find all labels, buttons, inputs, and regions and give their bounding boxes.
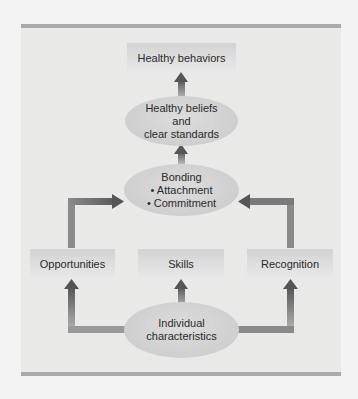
node-label: Healthy beliefs [145,102,217,115]
node-individual-characteristics: Individual characteristics [124,302,239,358]
arrow-recognition-to-bonding-icon [238,194,294,248]
node-label: • Attachment [151,184,213,197]
node-label: Individual [158,317,204,330]
node-label: Opportunities [40,258,105,270]
arrow-beliefs-to-behaviors-icon [174,72,188,98]
node-healthy-behaviors: Healthy behaviors [127,43,236,72]
arrow-bonding-to-beliefs-icon [174,144,188,164]
node-skills: Skills [138,249,224,278]
node-recognition: Recognition [247,249,333,278]
node-label: Recognition [261,258,319,270]
arrow-individual-to-opportunities-icon [64,279,128,333]
arrow-individual-to-recognition-icon [234,279,298,333]
node-bonding: Bonding • Attachment • Commitment [124,164,239,216]
node-healthy-beliefs: Healthy beliefs and clear standards [125,96,238,146]
node-label: • Commitment [147,197,216,210]
node-label: clear standards [144,128,219,141]
node-label: Bonding [161,171,201,184]
node-label: Healthy behaviors [137,52,225,64]
node-label: Skills [168,258,194,270]
node-label: characteristics [146,330,216,343]
node-label: and [172,115,190,128]
node-opportunities: Opportunities [30,249,115,278]
arrow-opportunities-to-bonding-icon [68,194,124,248]
